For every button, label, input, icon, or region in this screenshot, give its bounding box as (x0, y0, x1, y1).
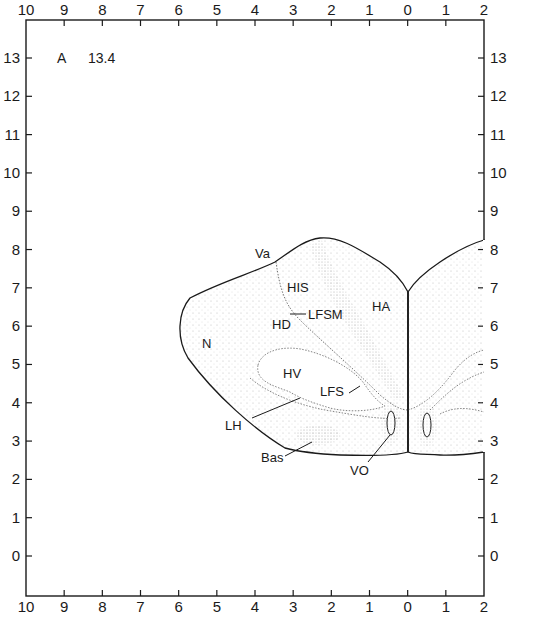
right-axis-label: 0 (490, 547, 498, 564)
left-axis-label: 6 (12, 317, 20, 334)
left-axis-label: 9 (12, 202, 20, 219)
bottom-axis-label: 4 (251, 598, 259, 615)
right-axis-label: 6 (490, 317, 498, 334)
plate-letter: A (57, 50, 67, 66)
bottom-axis-label: 6 (174, 598, 182, 615)
plate-number: 13.4 (88, 50, 115, 66)
top-axis-label: 8 (98, 1, 106, 18)
top-axis-label: 9 (60, 1, 68, 18)
bottom-axis-label: 5 (213, 598, 221, 615)
right-axis-label: 5 (490, 355, 498, 372)
right-axis-label: 9 (490, 202, 498, 219)
top-axis-label: 4 (251, 1, 259, 18)
right-axis-label: 3 (490, 432, 498, 449)
left-axis-label: 13 (3, 49, 20, 66)
top-axis-label: 3 (289, 1, 297, 18)
left-axis-label: 5 (12, 355, 20, 372)
label-Va: Va (255, 246, 271, 261)
left-axis-label: 7 (12, 279, 20, 296)
brain-atlas-plate: 1010998877665544332211001122131312121111… (0, 0, 535, 621)
left-axis-label: 2 (12, 470, 20, 487)
top-axis-label: 2 (480, 1, 488, 18)
left-axis-label: 4 (12, 394, 20, 411)
left-axis-label: 1 (12, 509, 20, 526)
bottom-axis-label: 9 (60, 598, 68, 615)
right-hemisphere (408, 240, 484, 455)
bottom-axis-label: 0 (403, 598, 411, 615)
top-axis-label: 1 (442, 1, 450, 18)
top-axis-label: 0 (403, 1, 411, 18)
left-axis-label: 0 (12, 547, 20, 564)
bottom-axis-label: 2 (327, 598, 335, 615)
right-axis-label: 2 (490, 470, 498, 487)
label-VO: VO (350, 463, 369, 478)
left-axis-label: 8 (12, 241, 20, 258)
label-HA: HA (372, 299, 390, 314)
bottom-axis-label: 3 (289, 598, 297, 615)
bottom-axis-label: 8 (98, 598, 106, 615)
left-axis-label: 12 (3, 87, 20, 104)
label-Bas: Bas (261, 450, 284, 465)
bottom-axis-label: 2 (480, 598, 488, 615)
label-LFSM: LFSM (308, 307, 343, 322)
right-axis-label: 8 (490, 241, 498, 258)
bottom-axis-label: 7 (136, 598, 144, 615)
left-axis-label: 10 (3, 164, 20, 181)
bottom-axis-label: 1 (365, 598, 373, 615)
right-axis-label: 12 (490, 87, 507, 104)
left-axis-label: 11 (4, 126, 20, 143)
top-axis-label: 5 (213, 1, 221, 18)
right-axis-label: 10 (490, 164, 507, 181)
left-hemisphere (180, 238, 408, 456)
top-axis-label: 7 (136, 1, 144, 18)
bottom-axis-label: 1 (442, 598, 450, 615)
right-axis-label: 11 (490, 126, 506, 143)
label-HD: HD (272, 317, 291, 332)
top-axis-label: 6 (174, 1, 182, 18)
right-axis-label: 4 (490, 394, 498, 411)
label-LH: LH (225, 418, 242, 433)
label-HV: HV (283, 366, 301, 381)
label-HIS: HIS (287, 280, 309, 295)
right-axis-label: 7 (490, 279, 498, 296)
right-axis-label: 13 (490, 49, 507, 66)
top-axis-label: 2 (327, 1, 335, 18)
top-axis-label: 1 (365, 1, 373, 18)
label-LFS: LFS (320, 384, 344, 399)
left-axis-label: 3 (12, 432, 20, 449)
bottom-axis-label: 10 (18, 598, 35, 615)
top-axis-label: 10 (18, 1, 35, 18)
right-axis-label: 1 (490, 509, 498, 526)
label-N: N (202, 336, 211, 351)
